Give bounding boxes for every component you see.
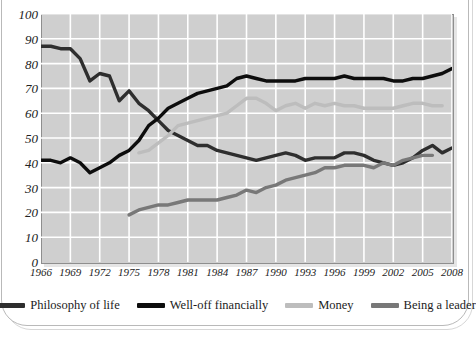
x-axis-tick-label: 1996: [324, 266, 346, 278]
legend-item-1[interactable]: Well-off financially: [137, 298, 268, 313]
series-line-3: [129, 155, 432, 215]
x-axis-ticks: 1966196919721975197819811984198719901993…: [41, 266, 452, 286]
plot-wrapper: 1009080706050403020100 19661969197219751…: [0, 0, 473, 290]
series-line-2: [139, 98, 442, 153]
legend-swatch-icon: [371, 303, 399, 308]
x-axis-tick-label: 1978: [147, 266, 169, 278]
x-axis-tick-label: 1981: [177, 266, 199, 278]
x-axis-tick-label: 1993: [294, 266, 316, 278]
legend-item-label: Philosophy of life: [30, 298, 120, 313]
legend-swatch-icon: [0, 303, 25, 308]
x-axis-tick-label: 1990: [265, 266, 287, 278]
legend-item-2[interactable]: Money: [285, 298, 353, 313]
legend-swatch-icon: [137, 303, 165, 308]
x-axis-tick-label: 1969: [59, 266, 81, 278]
x-axis-tick-label: 1966: [30, 266, 52, 278]
y-axis-tick-label: 20: [2, 206, 38, 219]
legend-item-3[interactable]: Being a leader: [371, 298, 476, 313]
x-axis-tick-label: 2002: [382, 266, 404, 278]
legend-swatch-icon: [285, 303, 313, 308]
chart-plot: [41, 14, 452, 262]
x-axis-tick-label: 2005: [412, 266, 434, 278]
y-axis-ticks: 1009080706050403020100: [0, 0, 38, 290]
y-axis-tick-label: 10: [2, 231, 38, 244]
y-axis-tick-label: 50: [2, 132, 38, 145]
x-axis-tick-label: 1999: [353, 266, 375, 278]
x-axis-tick-label: 2008: [441, 266, 463, 278]
chart-legend: Philosophy of lifeWell-off financiallyMo…: [0, 294, 473, 316]
y-axis-tick-label: 80: [2, 57, 38, 70]
y-axis-tick-label: 70: [2, 82, 38, 95]
y-axis-tick-label: 90: [2, 32, 38, 45]
y-axis-tick-label: 30: [2, 181, 38, 194]
y-axis-tick-label: 40: [2, 156, 38, 169]
x-axis-tick-label: 1975: [118, 266, 140, 278]
legend-item-label: Well-off financially: [170, 298, 268, 313]
legend-item-0[interactable]: Philosophy of life: [0, 298, 120, 313]
x-axis-tick-label: 1972: [89, 266, 111, 278]
x-axis-tick-label: 1984: [206, 266, 228, 278]
x-axis-tick-label: 1987: [236, 266, 258, 278]
y-axis-tick-label: 60: [2, 107, 38, 120]
y-axis-tick-label: 100: [2, 8, 38, 21]
legend-item-label: Being a leader: [404, 298, 476, 313]
legend-item-label: Money: [318, 298, 353, 313]
